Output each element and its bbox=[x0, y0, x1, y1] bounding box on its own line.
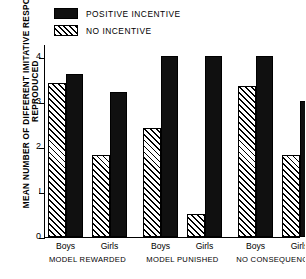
bar-positive-incentive-model-girls bbox=[205, 56, 223, 236]
bar-chart-figure: MEAN NUMBER OF DIFFERENT IMITATIVE RESPO… bbox=[0, 0, 305, 279]
x-label-boys-1: Boys bbox=[46, 241, 86, 251]
x-axis-labels: BoysGirlsMODEL REWARDEDBoysGirlsMODEL PU… bbox=[44, 241, 302, 279]
bar-positive-incentive-model-boys bbox=[66, 74, 84, 236]
hatched-swatch-icon bbox=[54, 25, 78, 36]
bar-no-incentive-no-girls bbox=[282, 155, 300, 236]
legend-label-positive-incentive: POSITIVE INCENTIVE bbox=[86, 9, 181, 19]
legend-item-no-incentive: NO INCENTIVE bbox=[54, 23, 181, 38]
bar-no-incentive-model-boys bbox=[143, 128, 161, 236]
bar-positive-incentive-model-boys bbox=[161, 56, 179, 236]
bar-no-incentive-no-boys bbox=[238, 86, 256, 237]
bar-no-incentive-model-girls bbox=[187, 214, 205, 237]
x-label-girls-1: Girls bbox=[90, 241, 130, 251]
bar-positive-incentive-no-girls bbox=[300, 101, 306, 236]
y-tick-label: I bbox=[38, 187, 41, 196]
plot-area: 0I234 bbox=[44, 45, 300, 238]
bar-no-incentive-model-boys bbox=[48, 83, 66, 236]
x-axis-line bbox=[44, 237, 300, 238]
bar-no-incentive-model-girls bbox=[92, 155, 110, 236]
x-group-label-model-rewarded: MODEL REWARDED bbox=[33, 255, 143, 264]
x-label-girls-3: Girls bbox=[280, 241, 306, 251]
y-tick-label: 0 bbox=[36, 232, 41, 241]
solid-black-swatch-icon bbox=[54, 8, 78, 19]
y-axis-title: MEAN NUMBER OF DIFFERENT IMITATIVE RESPO… bbox=[19, 0, 45, 191]
legend-item-positive-incentive: POSITIVE INCENTIVE bbox=[54, 6, 181, 21]
bar-positive-incentive-model-girls bbox=[110, 92, 128, 236]
y-axis-title-line2: REPRODUCED bbox=[32, 60, 41, 122]
x-group-label-model-punished: MODEL PUNISHED bbox=[128, 255, 238, 264]
y-tick-label: 3 bbox=[36, 97, 41, 106]
bar-series-container bbox=[45, 45, 300, 237]
x-label-boys-3: Boys bbox=[236, 241, 276, 251]
y-tick-label: 4 bbox=[36, 52, 41, 61]
chart-legend: POSITIVE INCENTIVE NO INCENTIVE bbox=[54, 6, 181, 40]
bar-positive-incentive-no-boys bbox=[256, 56, 274, 236]
legend-label-no-incentive: NO INCENTIVE bbox=[86, 26, 152, 36]
x-group-label-no-consequences: NO CONSEQUENCES bbox=[223, 255, 306, 264]
y-tick-label: 2 bbox=[36, 142, 41, 151]
x-label-girls-2: Girls bbox=[185, 241, 225, 251]
x-label-boys-2: Boys bbox=[141, 241, 181, 251]
